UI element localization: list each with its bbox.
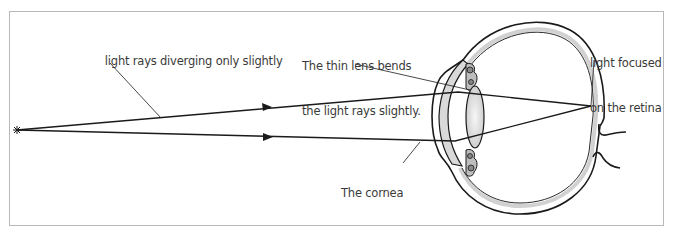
label-text: light rays diverging only slightly [105,54,283,68]
eye-diagram: light rays diverging only slightly The t… [0,0,673,232]
lens [466,86,484,148]
label-line: the light rays slightly. [302,104,421,119]
label-line: on the retina [590,101,662,116]
label-line: The cornea [341,186,403,201]
arrowhead-icon [262,103,272,111]
label-line: light focused [590,56,662,71]
eyeball [432,22,604,214]
label-line: bends the [341,231,403,232]
label-cornea: The cornea bends the light rays. [341,156,403,232]
optic-nerve-lower [593,153,620,168]
arrowhead-icon [263,133,273,141]
label-thin-lens: The thin lens bends the light rays sligh… [302,29,421,149]
label-retina-focus: light focused on the retina [590,26,662,146]
label-diverging-rays: light rays diverging only slightly [91,39,283,84]
label-line: The thin lens bends [302,59,421,74]
